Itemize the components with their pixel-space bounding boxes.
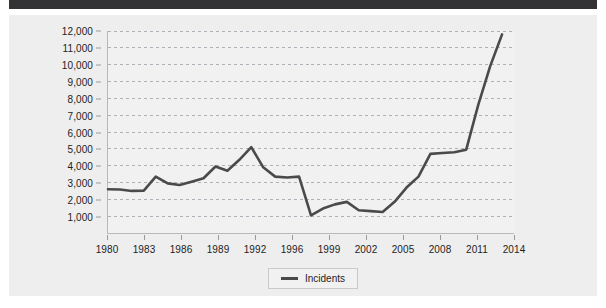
x-tick-label: 1980 — [96, 244, 119, 255]
y-tick-label: 9,000 — [67, 76, 93, 87]
x-tick-mark — [403, 235, 404, 240]
y-tick-label: 5,000 — [67, 144, 93, 155]
y-tick-mark — [96, 81, 101, 82]
x-tick-mark — [181, 235, 182, 240]
y-tick-label: 1,000 — [67, 212, 93, 223]
y-tick-label: 7,000 — [67, 110, 93, 121]
x-tick-label: 2002 — [355, 244, 378, 255]
y-tick-label: 8,000 — [67, 93, 93, 104]
x-tick-label: 2011 — [466, 244, 488, 255]
x-tick-mark — [292, 235, 293, 240]
x-tick-label: 1983 — [133, 244, 156, 255]
y-tick-label: 11,000 — [63, 42, 93, 53]
y-tick-label: 6,000 — [67, 127, 93, 138]
y-tick-label: 2,000 — [67, 195, 93, 206]
y-tick-mark — [96, 47, 101, 48]
y-tick-mark — [96, 64, 101, 65]
x-tick-mark — [107, 235, 108, 240]
y-tick-label: 4,000 — [67, 161, 93, 172]
y-tick-mark — [96, 200, 101, 201]
x-tick-label: 1986 — [170, 244, 193, 255]
line-chart: 1,0002,0003,0004,0005,0006,0007,0008,000… — [9, 15, 597, 296]
legend-swatch-incidents — [281, 277, 298, 280]
x-tick-label: 2014 — [503, 244, 526, 255]
series-layer — [108, 31, 514, 233]
x-tick-label: 1992 — [244, 244, 267, 255]
y-tick-mark — [96, 31, 101, 32]
chart-legend: Incidents — [268, 268, 358, 289]
x-tick-mark — [329, 235, 330, 240]
y-tick-label: 3,000 — [67, 178, 93, 189]
x-axis: 1980198319861989199219961999200220052008… — [107, 235, 514, 261]
x-tick-mark — [366, 235, 367, 240]
x-tick-mark — [255, 235, 256, 240]
y-tick-mark — [96, 132, 101, 133]
x-tick-label: 1989 — [207, 244, 230, 255]
x-tick-label: 2005 — [392, 244, 415, 255]
y-tick-label: 10,000 — [62, 59, 93, 70]
y-tick-mark — [96, 183, 101, 184]
y-tick-mark — [96, 98, 101, 99]
legend-label-incidents: Incidents — [305, 273, 345, 284]
y-tick-label: 12,000 — [62, 26, 93, 37]
screenshot-root: 1,0002,0003,0004,0005,0006,0007,0008,000… — [0, 0, 606, 308]
y-tick-mark — [96, 217, 101, 218]
x-tick-mark — [440, 235, 441, 240]
x-tick-mark — [144, 235, 145, 240]
plot-area — [107, 31, 514, 234]
figure-surface: 1,0002,0003,0004,0005,0006,0007,0008,000… — [9, 15, 597, 296]
x-tick-label: 1996 — [281, 244, 304, 255]
y-tick-mark — [96, 166, 101, 167]
x-tick-label: 1999 — [318, 244, 341, 255]
y-tick-mark — [96, 149, 101, 150]
x-tick-label: 2008 — [429, 244, 452, 255]
top-dark-band — [9, 0, 597, 9]
x-tick-mark — [477, 235, 478, 240]
x-tick-mark — [514, 235, 515, 240]
x-tick-mark — [218, 235, 219, 240]
y-tick-mark — [96, 115, 101, 116]
y-axis: 1,0002,0003,0004,0005,0006,0007,0008,000… — [9, 31, 101, 234]
